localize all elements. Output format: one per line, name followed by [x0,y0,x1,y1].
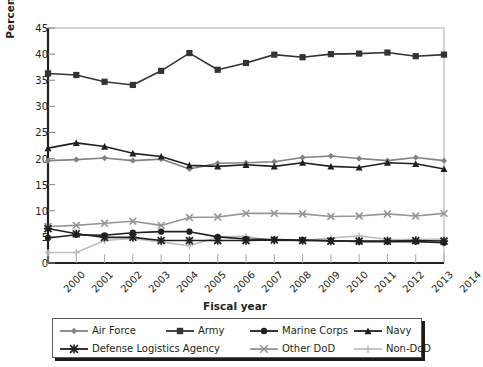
legend-label: Navy [386,326,411,336]
x-tick-2007: 2007 [259,269,285,295]
x-axis-title: Fiscal year [0,300,470,312]
legend-label: Other DoD [282,344,335,354]
legend-label: Marine Corps [282,326,348,336]
legend-item-navy[interactable]: Navy [353,324,411,338]
x-tick-2005: 2005 [203,269,229,295]
legend-marker-square-icon [165,324,195,338]
x-tick-2001: 2001 [90,269,116,295]
legend-item-other-dod[interactable]: Other DoD [249,342,335,356]
legend-item-air-force[interactable]: Air Force [59,324,136,338]
x-tick-2012: 2012 [401,269,427,295]
x-tick-2004: 2004 [175,269,201,295]
x-axis-tick-labels: 2000200120022003200420052006200720082009… [0,0,470,300]
legend-marker-plus-icon [353,342,383,356]
legend-item-army[interactable]: Army [165,324,224,338]
x-tick-2014: 2014 [457,269,483,295]
legend-marker-triangle-icon [353,324,383,338]
legend-row: Air ForceArmyMarine CorpsNavy [53,322,423,342]
legend-marker-asterisk-icon [59,342,89,356]
x-tick-2013: 2013 [429,269,455,295]
x-tick-2009: 2009 [316,269,342,295]
chart-legend: Air ForceArmyMarine CorpsNavyDefense Log… [52,318,422,358]
x-tick-2011: 2011 [373,269,399,295]
legend-row: Defense Logistics AgencyOther DoDNon-DoD [53,340,423,360]
legend-label: Army [198,326,224,336]
x-tick-2010: 2010 [344,269,370,295]
x-tick-2006: 2006 [231,269,257,295]
x-tick-2008: 2008 [288,269,314,295]
legend-label: Non-DoD [386,344,431,354]
legend-item-defense-logistics-agency[interactable]: Defense Logistics Agency [59,342,220,356]
legend-marker-x-icon [249,342,279,356]
legend-label: Air Force [92,326,136,336]
x-tick-2000: 2000 [61,269,87,295]
legend-item-marine-corps[interactable]: Marine Corps [249,324,348,338]
legend-item-non-dod[interactable]: Non-DoD [353,342,431,356]
legend-marker-diamond-icon [59,324,89,338]
legend-label: Defense Logistics Agency [92,344,220,354]
x-tick-2002: 2002 [118,269,144,295]
legend-marker-circle-icon [249,324,279,338]
x-tick-2003: 2003 [146,269,172,295]
